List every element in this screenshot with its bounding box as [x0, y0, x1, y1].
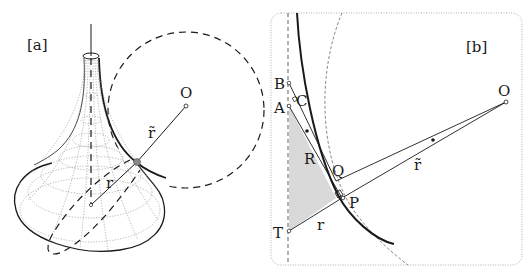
label-r-a: r — [106, 174, 114, 192]
line-P-O — [342, 102, 506, 198]
label-r-b: r — [317, 216, 325, 234]
panel-a: [a] — [15, 24, 265, 254]
angle-dot-2 — [431, 138, 435, 142]
shaded-triangle — [289, 106, 336, 231]
point-B — [287, 81, 291, 85]
angle-dot-1 — [305, 129, 309, 133]
label-T: T — [273, 224, 283, 242]
label-O-a: O — [180, 84, 192, 102]
label-P: P — [349, 194, 359, 212]
label-r-tilde-b: r̃ — [414, 156, 422, 174]
point-A — [287, 104, 291, 108]
segment-r-tilde — [137, 106, 186, 162]
label-R: R — [304, 150, 316, 168]
panel-a-label: [a] — [27, 36, 48, 54]
label-O-b: O — [498, 82, 510, 100]
osculating-arc — [325, 13, 408, 265]
point-O-b — [504, 100, 508, 104]
label-r-tilde-a: r̃ — [148, 124, 156, 142]
tangent-point — [134, 159, 141, 166]
label-B: B — [274, 75, 285, 93]
point-T — [287, 229, 291, 233]
point-O-a — [184, 104, 188, 108]
label-Q: Q — [332, 162, 344, 180]
center-point — [89, 203, 92, 206]
panel-b-label: [b] — [466, 38, 487, 56]
point-P — [341, 196, 345, 200]
label-C: C — [296, 92, 307, 110]
label-A: A — [273, 99, 285, 117]
panel-b: [b] B A C R Q P T r — [271, 13, 522, 265]
